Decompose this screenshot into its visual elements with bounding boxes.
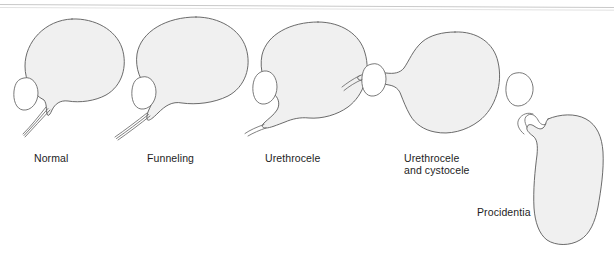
panel-procidentia-illustration: [506, 73, 603, 245]
panel-urethrocele-illustration: [245, 22, 367, 136]
bladder-shape-urethrocele: [261, 22, 367, 128]
pubic-bone-normal: [14, 78, 38, 110]
label-funneling: Funneling: [147, 152, 194, 164]
panel-normal-illustration: [14, 19, 124, 137]
label-procidentia: Procidentia: [477, 206, 531, 218]
pubic-bone-urethrocele-cystocele: [362, 64, 386, 96]
prolapsed-organ-shape-procidentia: [527, 115, 603, 245]
urethra-line-funneling-posterior: [115, 113, 147, 137]
pubic-bone-urethrocele: [253, 71, 277, 104]
scan-artifact-line: [0, 5, 614, 8]
urethra-line-normal-mid: [24, 109, 48, 136]
panel-funneling-illustration: [115, 17, 248, 140]
scan-artifact-line-soft: [0, 8, 614, 11]
anatomical-diagram: Normal Funneling Urethrocele Urethrocele…: [0, 0, 614, 254]
urethra-line-urethrocele-anterior: [248, 128, 266, 136]
urethra-line-funneling-anterior: [118, 116, 150, 140]
pubic-bone-funneling: [132, 77, 156, 109]
label-urethrocele: Urethrocele: [265, 152, 320, 164]
bladder-shape-normal: [25, 19, 124, 115]
bladder-shape-funneling: [137, 17, 249, 120]
label-urethrocele-and-cystocele: Urethrocele and cystocele: [404, 152, 470, 176]
label-normal: Normal: [34, 152, 68, 164]
panel-urethrocele-and-cystocele-illustration: [342, 32, 500, 133]
urethra-line-normal-posterior: [23, 107, 46, 134]
urethra-line-normal-anterior: [25, 110, 50, 137]
pubic-bone-procidentia: [506, 73, 533, 106]
urethra-line-funneling-mid: [117, 115, 149, 139]
